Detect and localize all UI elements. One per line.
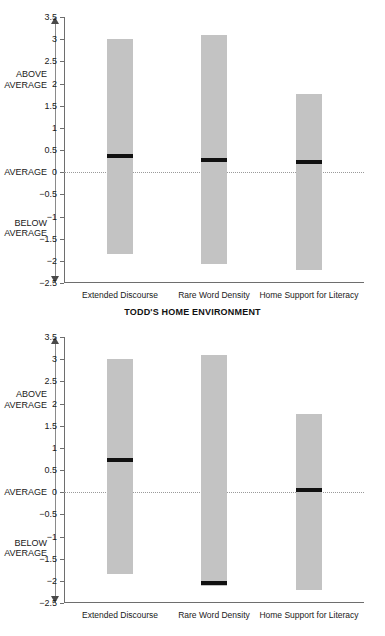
y-axis-tick-label: 2.5	[44, 57, 57, 66]
range-bar	[201, 35, 227, 264]
y-axis-tick-label: 0.5	[44, 466, 57, 475]
range-bar	[107, 39, 133, 254]
y-axis-tick	[60, 106, 64, 107]
y-axis-tick-label: −1	[47, 212, 57, 221]
y-axis-tick	[60, 150, 64, 151]
y-axis-tick	[60, 603, 64, 604]
y-axis-tick-label: 1.5	[44, 421, 57, 430]
x-axis-line	[64, 602, 364, 603]
y-axis-tick	[60, 61, 64, 62]
y-axis-tick-label: 3.5	[44, 333, 57, 342]
y-axis-tick-label: −2.5	[39, 599, 57, 608]
y-axis-tick	[60, 537, 64, 538]
category-label: Home Support for Literacy	[259, 290, 358, 300]
y-axis-tick-label: 2	[52, 79, 57, 88]
category-label: Extended Discourse	[82, 290, 158, 300]
axis-annotation-average: AVERAGE	[4, 167, 47, 178]
y-axis-tick-label: 0.5	[44, 146, 57, 155]
y-axis-tick-label: 3.5	[44, 13, 57, 22]
axis-annotation-above-average: ABOVEAVERAGE	[4, 389, 47, 410]
y-axis-tick-label: 1.5	[44, 101, 57, 110]
value-marker	[296, 488, 322, 492]
y-axis-tick	[60, 381, 64, 382]
y-axis-tick	[60, 128, 64, 129]
y-axis-tick	[60, 217, 64, 218]
y-axis-tick-label: −0.5	[39, 510, 57, 519]
chart-page: ABOVEAVERAGEAVERAGEBELOWAVERAGE3.532.521…	[0, 0, 385, 636]
y-axis-tick	[60, 84, 64, 85]
range-bar	[296, 414, 322, 590]
y-axis-tick	[60, 283, 64, 284]
chart-title-top: TODD'S HOME ENVIRONMENT	[0, 307, 385, 317]
chart-panel-bottom: ABOVEAVERAGEAVERAGEBELOWAVERAGE3.532.521…	[0, 320, 385, 636]
y-axis-tick-label: −1.5	[39, 554, 57, 563]
y-axis-tick-label: 2.5	[44, 377, 57, 386]
category-label: Rare Word Density	[178, 290, 250, 300]
value-marker	[201, 158, 227, 162]
y-axis-tick	[60, 426, 64, 427]
chart-panel-top: ABOVEAVERAGEAVERAGEBELOWAVERAGE3.532.521…	[0, 0, 385, 320]
value-marker	[296, 160, 322, 164]
value-marker	[107, 154, 133, 158]
axis-annotation-above-average: ABOVEAVERAGE	[4, 69, 47, 90]
range-bar	[107, 359, 133, 574]
y-axis-tick-label: 1	[52, 123, 57, 132]
y-axis-tick	[60, 559, 64, 560]
category-label: Rare Word Density	[178, 610, 250, 620]
y-axis-tick-label: −1	[47, 532, 57, 541]
y-axis-tick	[60, 448, 64, 449]
category-label: Home Support for Literacy	[259, 610, 358, 620]
y-axis-tick-label: 0	[52, 168, 57, 177]
axis-annotation-average: AVERAGE	[4, 487, 47, 498]
value-marker	[201, 581, 227, 585]
y-axis-line	[64, 17, 65, 283]
y-axis-tick-label: −0.5	[39, 190, 57, 199]
category-label: Extended Discourse	[82, 610, 158, 620]
range-bar	[201, 355, 227, 586]
y-axis-tick-label: 2	[52, 399, 57, 408]
y-axis-tick	[60, 39, 64, 40]
y-axis-tick-label: −2	[47, 256, 57, 265]
y-axis-tick	[60, 194, 64, 195]
y-axis-tick	[60, 470, 64, 471]
y-axis-tick	[60, 337, 64, 338]
y-axis-tick	[60, 359, 64, 360]
y-axis-tick-label: 3	[52, 355, 57, 364]
x-axis-line	[64, 282, 364, 283]
plot-area: 3.532.521.510.50−0.5−1−1.5−2−2.5	[64, 337, 364, 603]
y-axis-tick-label: −2.5	[39, 279, 57, 288]
y-axis-tick	[60, 261, 64, 262]
y-axis-tick-label: −1.5	[39, 234, 57, 243]
value-marker	[107, 458, 133, 462]
range-bar	[296, 94, 322, 270]
y-axis-line	[64, 337, 65, 603]
plot-area: 3.532.521.510.50−0.5−1−1.5−2−2.5	[64, 17, 364, 283]
y-axis-tick	[60, 17, 64, 18]
y-axis-tick	[60, 404, 64, 405]
y-axis-tick	[60, 239, 64, 240]
y-axis-tick-label: −2	[47, 576, 57, 585]
y-axis-tick	[60, 514, 64, 515]
y-axis-tick	[60, 581, 64, 582]
y-axis-tick-label: 0	[52, 488, 57, 497]
y-axis-tick-label: 3	[52, 35, 57, 44]
y-axis-tick-label: 1	[52, 443, 57, 452]
